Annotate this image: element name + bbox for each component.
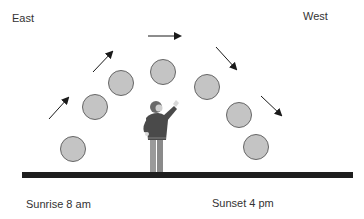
arrow-icon-5 bbox=[261, 96, 281, 115]
sun-position-7 bbox=[244, 135, 269, 160]
sun-position-1 bbox=[61, 137, 86, 162]
sun-position-4 bbox=[151, 60, 176, 85]
arrow-icon-4 bbox=[216, 47, 236, 69]
sun-position-2 bbox=[83, 95, 108, 120]
sun-position-6 bbox=[227, 103, 252, 128]
person-figure bbox=[143, 100, 179, 172]
arrow-icon-2 bbox=[93, 52, 112, 72]
sun-positions bbox=[61, 60, 269, 162]
sun-path-diagram bbox=[0, 0, 364, 219]
sun-position-3 bbox=[109, 71, 134, 96]
arrow-icon-1 bbox=[49, 98, 68, 119]
sun-position-5 bbox=[195, 75, 220, 100]
ground-line bbox=[22, 172, 353, 178]
